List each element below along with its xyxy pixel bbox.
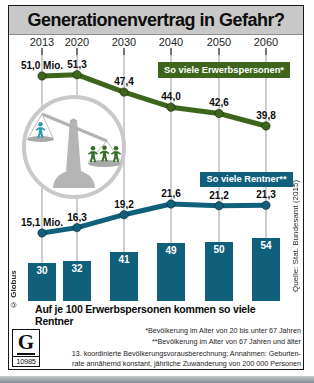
left-pan <box>27 136 54 142</box>
balance-scale-illustration <box>24 97 124 197</box>
globus-logo-number: 10985 <box>13 356 39 366</box>
scale-pivot <box>71 119 76 124</box>
data-point-erwerbspersonen <box>215 109 223 117</box>
data-point-erwerbspersonen <box>167 103 175 111</box>
footnote-method-line2: rate annähernd konstant, jährliche Zuwan… <box>72 359 301 369</box>
legend-badge-rentner: So viele Rentner** <box>200 172 293 187</box>
globus-logo-letter: G <box>17 331 35 355</box>
scan-edge-artifact <box>0 376 314 383</box>
footnote-doublestar: **Bevölkerung im Alter von 67 Jahren und… <box>145 337 301 348</box>
data-point-rentner <box>38 229 46 237</box>
data-point-erwerbspersonen <box>73 71 81 79</box>
legend-badge-erwerbspersonen: So viele Erwerbspersonen* <box>158 62 290 78</box>
globus-logo: G 10985 <box>12 329 40 367</box>
footnote-method: 13. koordinierte Bevölkerungsvorausberec… <box>72 349 301 368</box>
data-point-rentner <box>167 200 175 208</box>
footnote-star: *Bevölkerung im Alter von 20 bis unter 6… <box>145 326 301 337</box>
right-pan <box>88 160 121 167</box>
data-point-rentner <box>262 201 270 209</box>
data-point-erwerbspersonen <box>120 88 128 96</box>
chart-caption: Auf je 100 Erwerbspersonen kommen so vie… <box>35 303 295 327</box>
footnote-definitions: *Bevölkerung im Alter von 20 bis unter 6… <box>145 326 301 347</box>
data-point-rentner <box>120 211 128 219</box>
globus-credit: © Globus <box>9 260 18 320</box>
data-point-erwerbspersonen <box>38 72 46 80</box>
footnote-method-line1: 13. koordinierte Bevölkerungsvorausberec… <box>72 349 301 359</box>
data-point-erwerbspersonen <box>262 122 270 130</box>
source-label: Quelle: Stat. Bundesamt (2015) <box>291 158 300 314</box>
data-point-rentner <box>215 202 223 210</box>
infographic: Generationenvertrag in Gefahr? 201351,0 … <box>0 0 314 383</box>
data-point-rentner <box>73 223 81 231</box>
